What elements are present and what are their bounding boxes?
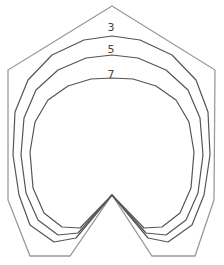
contour-label-5: 5: [108, 43, 115, 56]
contour-5: [21, 55, 203, 235]
contour-label-3: 3: [108, 21, 115, 34]
contour-label-7: 7: [108, 68, 115, 81]
contour-7: [30, 78, 194, 228]
contour-diagram: 3 5 7: [0, 0, 224, 265]
